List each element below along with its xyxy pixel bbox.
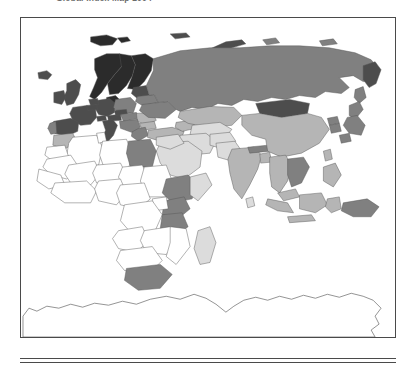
- country-south-korea: [329, 123, 341, 133]
- country-switzerland: [97, 115, 107, 121]
- country-egypt: [126, 139, 156, 167]
- figure-title: Global Index Map 2004: [56, 0, 152, 3]
- world-choropleth-map: [21, 18, 395, 337]
- bottom-double-rule: [20, 358, 396, 363]
- rule-line-lower: [20, 362, 396, 363]
- country-belgium: [87, 104, 98, 110]
- map-frame: [20, 17, 396, 338]
- rule-line-upper: [20, 358, 396, 359]
- country-japan-kyushu: [339, 133, 351, 143]
- country-netherlands: [89, 98, 99, 105]
